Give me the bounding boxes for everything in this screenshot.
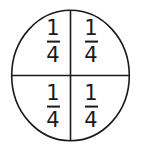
denominator-bottom-left: 4 bbox=[46, 110, 59, 131]
numerator-top-left: 1 bbox=[46, 18, 59, 39]
numerator-bottom-right: 1 bbox=[84, 83, 97, 104]
circle-diagram-svg bbox=[0, 0, 142, 151]
numerator-top-right: 1 bbox=[84, 18, 97, 39]
denominator-top-left: 4 bbox=[46, 45, 59, 66]
fraction-label-bottom-right: 1 4 bbox=[74, 83, 108, 132]
numerator-bottom-left: 1 bbox=[46, 83, 59, 104]
fraction-label-bottom-left: 1 4 bbox=[36, 83, 70, 132]
fraction-label-top-right: 1 4 bbox=[74, 18, 108, 67]
denominator-top-right: 4 bbox=[84, 45, 97, 66]
fraction-circle-figure: 1 4 1 4 1 4 1 4 bbox=[0, 0, 142, 151]
fraction-label-top-left: 1 4 bbox=[36, 18, 70, 67]
denominator-bottom-right: 4 bbox=[84, 110, 97, 131]
